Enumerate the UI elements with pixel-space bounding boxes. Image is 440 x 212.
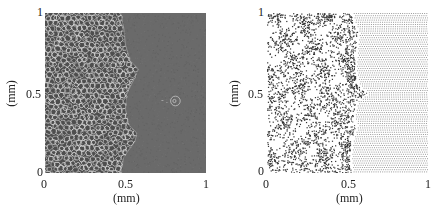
left-plot-canvas bbox=[45, 13, 206, 173]
left-panel: 1 0.5 0 0 0.5 1 (mm) (mm) bbox=[0, 0, 220, 212]
left-xtick-0.5: 0.5 bbox=[118, 178, 133, 190]
left-ytick-0.5: 0.5 bbox=[26, 88, 41, 100]
left-ytick-1: 1 bbox=[37, 6, 43, 18]
right-xtick-0: 0 bbox=[263, 178, 269, 190]
right-panel: 1 0.5 0 0 0.5 1 (mm) (mm) bbox=[220, 0, 440, 212]
left-xtick-0: 0 bbox=[41, 178, 47, 190]
left-plot-area bbox=[45, 13, 206, 173]
right-xtick-0.5: 0.5 bbox=[341, 178, 356, 190]
right-y-axis-label: (mm) bbox=[227, 80, 242, 107]
right-plot-area bbox=[267, 13, 428, 173]
right-ytick-1: 1 bbox=[258, 6, 264, 18]
left-x-axis-label: (mm) bbox=[113, 191, 140, 206]
right-plot-canvas bbox=[267, 13, 428, 173]
left-y-axis-label: (mm) bbox=[4, 80, 19, 107]
right-x-axis-label: (mm) bbox=[336, 191, 363, 206]
right-ytick-0: 0 bbox=[258, 165, 264, 177]
right-ytick-0.5: 0.5 bbox=[248, 88, 263, 100]
right-xtick-1: 1 bbox=[425, 178, 431, 190]
left-xtick-1: 1 bbox=[203, 178, 209, 190]
